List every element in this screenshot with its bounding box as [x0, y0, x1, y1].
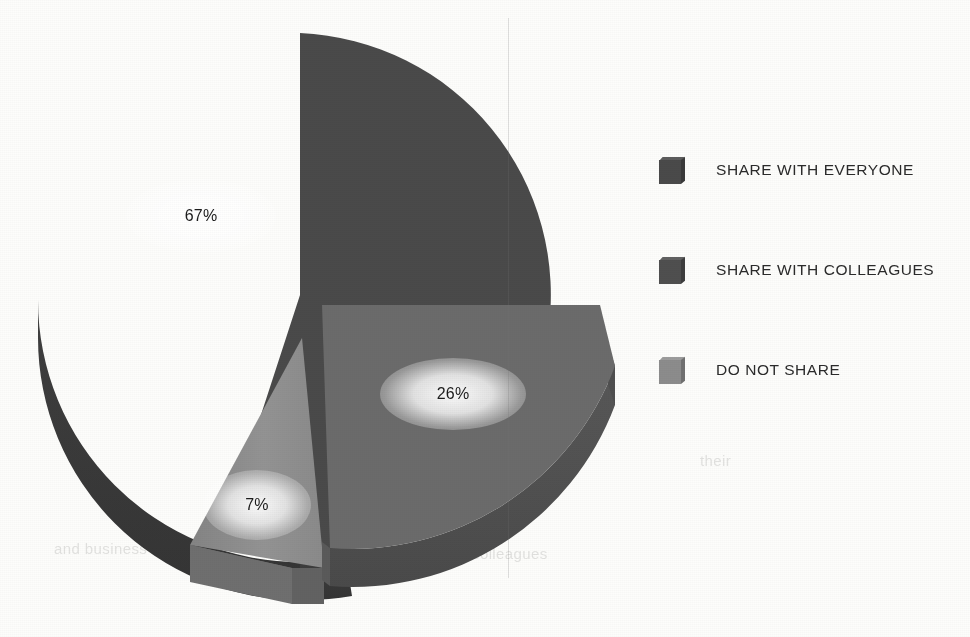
slice-colleagues — [322, 305, 615, 587]
slice-colleagues-edge-left — [322, 542, 330, 586]
legend-swatch-donotshare-icon — [659, 357, 685, 384]
chart-canvas: and business colleagues their — [0, 0, 970, 637]
legend-item-everyone[interactable]: SHARE WITH EVERYONE — [659, 150, 959, 190]
legend-swatch-colleagues-icon — [659, 257, 685, 284]
legend-item-colleagues[interactable]: SHARE WITH COLLEAGUES — [659, 250, 959, 290]
slice-donotshare — [190, 338, 324, 604]
legend-label-colleagues: SHARE WITH COLLEAGUES — [716, 261, 934, 279]
slice-colleagues-top — [322, 305, 615, 549]
legend-swatch-everyone-icon — [659, 157, 685, 184]
legend-item-donotshare[interactable]: DO NOT SHARE — [659, 350, 959, 390]
slice-donotshare-side-right — [292, 568, 324, 604]
legend-label-everyone: SHARE WITH EVERYONE — [716, 161, 914, 179]
chart-legend: SHARE WITH EVERYONE SHARE WITH COLLEAGUE… — [659, 150, 959, 390]
slice-donotshare-top — [190, 338, 324, 568]
legend-label-donotshare: DO NOT SHARE — [716, 361, 840, 379]
